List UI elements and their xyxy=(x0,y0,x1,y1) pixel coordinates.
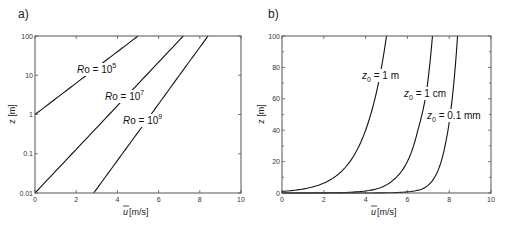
y-tick-label: 60 xyxy=(272,95,280,102)
panel-a: a) 02468100.010.1110100 z [m] u [m/s] Ro… xyxy=(7,7,245,217)
y-tick-label: 80 xyxy=(272,64,280,71)
x-tick-label: 4 xyxy=(364,196,368,203)
x-tick-label: 6 xyxy=(405,196,409,203)
y-tick-label: 20 xyxy=(272,158,280,165)
series-line-1 xyxy=(282,36,387,193)
y-tick-label: 100 xyxy=(21,33,33,40)
x-tick-label: 10 xyxy=(237,196,245,203)
panel-a-x-axis-label: u [m/s] xyxy=(123,206,149,217)
x-tick-label: 10 xyxy=(487,196,495,203)
x-tick-label: 8 xyxy=(198,196,202,203)
x-tick-label: 0 xyxy=(280,196,284,203)
panel-b-x-axis-label-units: [m/s] xyxy=(377,207,397,217)
panel-b: b) 0246810020406080100 z [m] u [m/s] z0 … xyxy=(256,7,495,217)
curve-label-ro: Ro = 107 xyxy=(105,89,144,102)
y-tick-label: 0.1 xyxy=(23,150,33,157)
y-tick-label: 1 xyxy=(29,111,33,118)
y-tick-label: 100 xyxy=(268,33,280,40)
y-tick-label: 0 xyxy=(276,190,280,197)
panel-b-y-axis-label: z [m] xyxy=(256,104,266,124)
y-tick-label: 10 xyxy=(25,72,33,79)
panel-a-x-axis-label-units: [m/s] xyxy=(129,207,149,217)
curve-label-ro: Ro = 109 xyxy=(123,113,162,126)
panel-b-label: b) xyxy=(268,7,279,21)
x-tick-label: 2 xyxy=(322,196,326,203)
y-tick-label: 0.01 xyxy=(19,190,33,197)
panel-a-y-axis-label: z [m] xyxy=(7,104,17,124)
x-tick-label: 8 xyxy=(447,196,451,203)
x-tick-label: 2 xyxy=(74,196,78,203)
x-tick-label: 4 xyxy=(115,196,119,203)
curve-label-ro: Ro = 105 xyxy=(77,62,116,75)
y-tick-label: 40 xyxy=(272,127,280,134)
figure: a) 02468100.010.1110100 z [m] u [m/s] Ro… xyxy=(0,0,507,225)
x-tick-label: 0 xyxy=(33,196,37,203)
x-tick-label: 6 xyxy=(157,196,161,203)
panel-b-x-axis-label: u [m/s] xyxy=(371,206,397,217)
series-line-2 xyxy=(282,36,432,193)
panel-b-x-axis-label-u: u xyxy=(371,207,376,217)
panel-a-label: a) xyxy=(18,7,29,21)
panel-a-x-axis-label-u: u xyxy=(123,207,128,217)
panel-b-curve-labels: z0 = 1 mz0 = 1 cmz0 = 0.1 mm xyxy=(360,69,481,123)
